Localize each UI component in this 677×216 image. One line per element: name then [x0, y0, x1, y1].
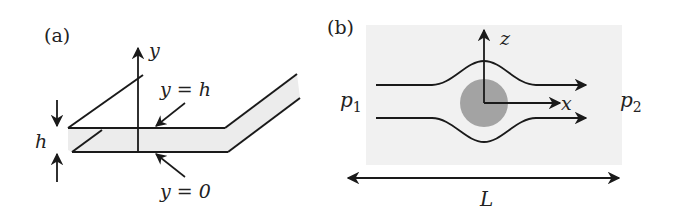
top-wall-pointer [156, 103, 185, 126]
bottom-wall-pointer [156, 154, 185, 177]
x-axis-label: x [561, 92, 572, 114]
top-wall-label: y = h [159, 78, 211, 100]
outlet-pressure-label: p2 [620, 88, 642, 115]
gap-label: h [35, 130, 47, 152]
z-axis-label: z [499, 27, 511, 49]
bottom-wall-label: y = 0 [159, 180, 211, 202]
y-axis-label: y [148, 39, 160, 61]
panel-a: (a) y h y = h y = 0 [35, 24, 300, 202]
length-label: L [479, 187, 493, 211]
panel-a-label: (a) [44, 24, 70, 46]
panel-b-label: (b) [327, 16, 354, 38]
figure: (a) y h y = h y = 0 (b) [0, 0, 677, 216]
panel-b: (b) z x p1 p2 L [327, 16, 642, 211]
inlet-pressure-label: p1 [340, 88, 362, 115]
